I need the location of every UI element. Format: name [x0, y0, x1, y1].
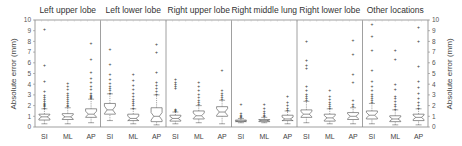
box-ap: ++++++AP: [217, 67, 228, 140]
box-iqr: [193, 111, 204, 119]
outlier-marker: +: [394, 56, 397, 62]
box-si: ++++++++SI: [170, 76, 181, 140]
outlier-marker: +: [370, 78, 373, 84]
x-category-label: ML: [63, 133, 73, 140]
outlier-marker: +: [43, 78, 46, 84]
outlier-marker: +: [108, 61, 111, 67]
x-category-label: ML: [128, 133, 138, 140]
box-si: ++++++++++SI: [301, 38, 312, 140]
y-axis-left: 012345678910: [24, 16, 35, 130]
y-tick-label: 10: [24, 16, 32, 23]
outlier-marker: +: [394, 86, 397, 92]
panel-title: Other locations: [367, 5, 424, 15]
outlier-marker: +: [263, 101, 266, 107]
y-tick-label: 7: [432, 48, 436, 55]
outlier-marker: +: [108, 71, 111, 77]
x-category-label: AP: [152, 133, 162, 140]
outlier-marker: +: [417, 90, 420, 96]
y-tick-label: 3: [432, 91, 436, 98]
y-tick-label: 0: [27, 123, 31, 130]
x-category-label: AP: [348, 133, 358, 140]
box-ml: ++++++++ML: [193, 79, 204, 140]
box-ap: ++++++++++++AP: [86, 40, 97, 140]
panel-left-upper-lobe: Left upper lobe+++++++++++++SI++++++++++…: [35, 5, 101, 140]
box-ml: +++++++++++ML: [128, 71, 139, 140]
x-category-label: SI: [107, 133, 114, 140]
outlier-marker: +: [305, 83, 308, 89]
panel-title: Right lower lobe: [299, 5, 360, 15]
y-tick-label: 5: [27, 70, 31, 77]
outlier-marker: +: [155, 69, 158, 75]
y-axis-label-right: Absolute error (mm): [445, 38, 454, 109]
y-tick-label: 8: [27, 38, 31, 45]
box-si: +++++++++++++SI: [39, 26, 50, 140]
y-tick-label: 6: [27, 59, 31, 66]
outlier-marker: +: [286, 93, 289, 99]
outlier-marker: +: [417, 38, 420, 44]
outlier-marker: +: [90, 75, 93, 81]
box-iqr: [86, 109, 97, 118]
y-tick-label: 0: [432, 123, 436, 130]
outlier-marker: +: [174, 76, 177, 82]
outlier-marker: +: [174, 106, 177, 112]
outlier-marker: +: [221, 87, 224, 93]
outlier-marker: +: [394, 93, 397, 99]
x-category-label: SI: [41, 133, 48, 140]
y-tick-label: 1: [432, 113, 436, 120]
panels: Left upper lobe+++++++++++++SI++++++++++…: [35, 5, 428, 140]
outlier-marker: +: [221, 67, 224, 73]
outlier-marker: +: [239, 101, 242, 107]
outlier-marker: +: [66, 80, 69, 86]
outlier-marker: +: [239, 110, 242, 116]
box-ap: +++++++AP: [348, 37, 359, 140]
outlier-marker: +: [328, 87, 331, 93]
box-ml: +++++++++++ML: [62, 80, 73, 140]
panel-right-upper-lobe: Right upper lobe++++++++SI++++++++ML++++…: [166, 5, 232, 140]
y-tick-label: 8: [432, 38, 436, 45]
box-si: +++++SI: [235, 101, 246, 140]
outlier-marker: +: [132, 71, 135, 77]
box-iqr: [301, 110, 312, 117]
x-category-label: AP: [414, 133, 424, 140]
y-tick-label: 10: [432, 16, 440, 23]
x-category-label: SI: [303, 133, 310, 140]
x-category-label: AP: [86, 133, 96, 140]
outlier-marker: +: [43, 62, 46, 68]
outlier-marker: +: [370, 33, 373, 39]
outlier-marker: +: [417, 78, 420, 84]
box-iqr: [217, 107, 228, 117]
outlier-marker: +: [132, 82, 135, 88]
x-category-label: ML: [194, 133, 204, 140]
outlier-marker: +: [90, 56, 93, 62]
outlier-marker: +: [328, 93, 331, 99]
panel-title: Left lower lobe: [106, 5, 162, 15]
box-ap: +++++AP: [282, 93, 293, 140]
y-axis-label-left: Absolute error (mm): [9, 38, 18, 109]
box-ml: +++++++ML: [324, 87, 335, 140]
outlier-marker: +: [417, 24, 420, 30]
x-category-label: SI: [172, 133, 179, 140]
outlier-marker: +: [305, 38, 308, 44]
y-tick-label: 1: [27, 113, 31, 120]
y-tick-label: 9: [27, 27, 31, 34]
box-ml: ++++++++++ML: [390, 47, 401, 140]
outlier-marker: +: [352, 97, 355, 103]
y-tick-label: 6: [432, 59, 436, 66]
outlier-marker: +: [417, 84, 420, 90]
outlier-marker: +: [132, 77, 135, 83]
panel-left-lower-lobe: Left lower lobe+++++++++SI+++++++++++ML+…: [101, 5, 167, 140]
box-si: ++++++++++++SI: [366, 21, 377, 140]
panel-right-middle-lung: Right middle lung+++++SI++++++ML+++++AP: [231, 5, 297, 140]
y-tick-label: 2: [432, 102, 436, 109]
y-tick-label: 3: [27, 91, 31, 98]
box-ap: ++++++++++AP: [413, 24, 424, 140]
outlier-marker: +: [370, 67, 373, 73]
x-category-label: ML: [259, 133, 269, 140]
panel-title: Left upper lobe: [39, 5, 96, 15]
box-ml: ++++++ML: [259, 101, 270, 140]
outlier-marker: +: [370, 83, 373, 89]
outlier-marker: +: [90, 69, 93, 75]
x-category-label: SI: [369, 133, 376, 140]
box-ap: ++++++++AP: [151, 41, 162, 140]
outlier-marker: +: [43, 26, 46, 32]
